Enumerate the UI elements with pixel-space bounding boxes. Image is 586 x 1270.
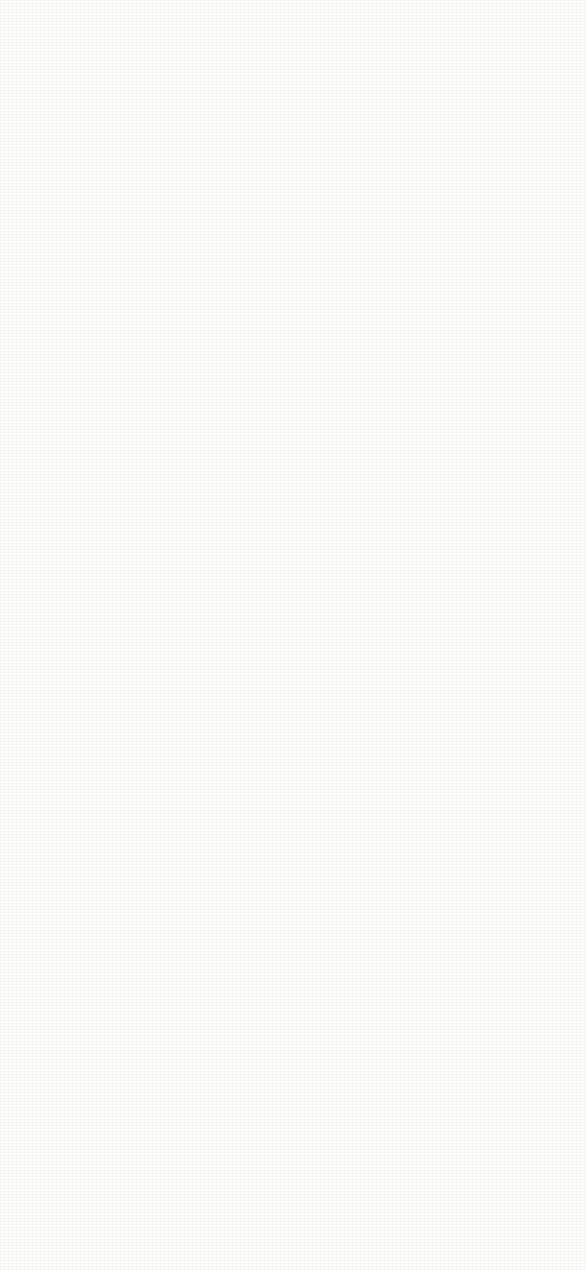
scanned-page xyxy=(0,0,586,1270)
scan-grain-overlay xyxy=(0,0,586,1270)
